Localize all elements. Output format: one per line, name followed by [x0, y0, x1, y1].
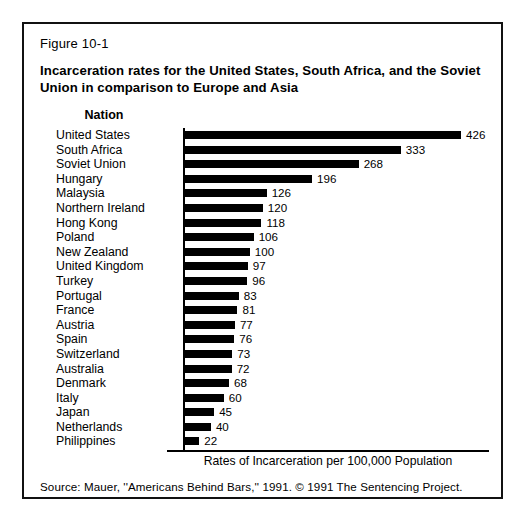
bar-value-label: 76 [234, 332, 252, 347]
bar-fill [185, 262, 248, 270]
bar-category-label: Denmark [56, 376, 176, 391]
bar-category-label: France [56, 303, 176, 318]
bar-row: Australia72 [40, 362, 490, 377]
x-axis-label: Rates of Incarceration per 100,000 Popul… [167, 454, 489, 468]
bar-category-label: South Africa [56, 143, 176, 158]
bar-row: Austria77 [40, 318, 490, 333]
bar-value-label: 97 [248, 259, 266, 274]
bar-track: 45 [185, 408, 461, 416]
bar-value-label: 196 [312, 172, 336, 187]
bar-fill [185, 219, 261, 227]
bar-row: Hong Kong118 [40, 216, 490, 231]
bar-row-list: United States426South Africa333Soviet Un… [40, 128, 490, 449]
bar-track: 118 [185, 219, 461, 227]
bar-track: 106 [185, 233, 461, 241]
bar-fill [185, 321, 235, 329]
bar-category-label: Italy [56, 391, 176, 406]
bar-track: 60 [185, 394, 461, 402]
bar-fill [185, 248, 250, 256]
bar-track: 126 [185, 189, 461, 197]
bar-category-label: Spain [56, 332, 176, 347]
bar-value-label: 106 [254, 230, 278, 245]
bar-category-label: Poland [56, 230, 176, 245]
bar-track: 97 [185, 262, 461, 270]
bar-value-label: 126 [267, 186, 291, 201]
bar-track: 76 [185, 335, 461, 343]
bar-value-label: 73 [232, 347, 250, 362]
bar-value-label: 60 [224, 391, 242, 406]
bar-fill [185, 335, 234, 343]
bar-row: Denmark68 [40, 376, 490, 391]
bar-fill [185, 306, 237, 314]
bar-value-label: 96 [247, 274, 265, 289]
bar-track: 120 [185, 204, 461, 212]
bar-category-label: Hungary [56, 172, 176, 187]
bar-value-label: 100 [250, 245, 274, 260]
bar-chart: United States426South Africa333Soviet Un… [40, 128, 490, 448]
bar-fill [185, 292, 239, 300]
bar-value-label: 81 [237, 303, 255, 318]
source-note: Source: Mauer, ''Americans Behind Bars,'… [40, 480, 463, 493]
bar-track: 22 [185, 437, 461, 445]
bar-track: 333 [185, 146, 461, 154]
bar-category-label: Austria [56, 318, 176, 333]
bar-fill [185, 160, 359, 168]
figure-number: Figure 10-1 [40, 36, 109, 51]
bar-row: Hungary196 [40, 172, 490, 187]
bar-fill [185, 146, 401, 154]
bar-row: United States426 [40, 128, 490, 143]
bar-row: New Zealand100 [40, 245, 490, 260]
bar-fill [185, 189, 267, 197]
bar-value-label: 77 [235, 318, 253, 333]
bar-category-label: Australia [56, 362, 176, 377]
bar-value-label: 45 [214, 405, 232, 420]
bar-row: Northern Ireland120 [40, 201, 490, 216]
bar-row: Malaysia126 [40, 186, 490, 201]
bar-category-label: Philippines [56, 434, 176, 449]
bar-category-label: Portugal [56, 289, 176, 304]
bar-category-label: Netherlands [56, 420, 176, 435]
bar-category-label: Northern Ireland [56, 201, 176, 216]
bar-track: 83 [185, 292, 461, 300]
bar-row: France81 [40, 303, 490, 318]
bar-fill [185, 379, 229, 387]
bar-value-label: 68 [229, 376, 247, 391]
bar-track: 72 [185, 365, 461, 373]
bar-row: Italy60 [40, 391, 490, 406]
bar-row: Poland106 [40, 230, 490, 245]
bar-row: Spain76 [40, 332, 490, 347]
axis-rule [167, 450, 489, 452]
bar-value-label: 268 [359, 157, 383, 172]
bar-value-label: 22 [199, 434, 217, 449]
bar-track: 96 [185, 277, 461, 285]
bar-category-label: New Zealand [56, 245, 176, 260]
bar-row: Turkey96 [40, 274, 490, 289]
bar-row: Soviet Union268 [40, 157, 490, 172]
bar-track: 81 [185, 306, 461, 314]
bar-row: South Africa333 [40, 143, 490, 158]
bar-row: Japan45 [40, 405, 490, 420]
bar-category-label: Hong Kong [56, 216, 176, 231]
figure-frame: Figure 10-1 Incarceration rates for the … [22, 22, 503, 499]
bar-fill [185, 131, 461, 139]
bar-fill [185, 175, 312, 183]
bar-fill [185, 408, 214, 416]
bar-track: 73 [185, 350, 461, 358]
bar-value-label: 72 [232, 362, 250, 377]
bar-fill [185, 365, 232, 373]
bar-value-label: 120 [263, 201, 287, 216]
bar-row: Portugal83 [40, 289, 490, 304]
bar-track: 196 [185, 175, 461, 183]
bar-value-label: 118 [261, 216, 284, 231]
bar-fill [185, 233, 254, 241]
bar-fill [185, 204, 263, 212]
bar-category-label: Turkey [56, 274, 176, 289]
bar-fill [185, 437, 199, 445]
bar-value-label: 40 [211, 420, 229, 435]
bar-row: Switzerland73 [40, 347, 490, 362]
nation-column-header: Nation [40, 108, 168, 122]
bar-category-label: Malaysia [56, 186, 176, 201]
bar-value-label: 333 [401, 143, 425, 158]
page-title: Incarceration rates for the United State… [40, 62, 488, 96]
bar-track: 40 [185, 423, 461, 431]
